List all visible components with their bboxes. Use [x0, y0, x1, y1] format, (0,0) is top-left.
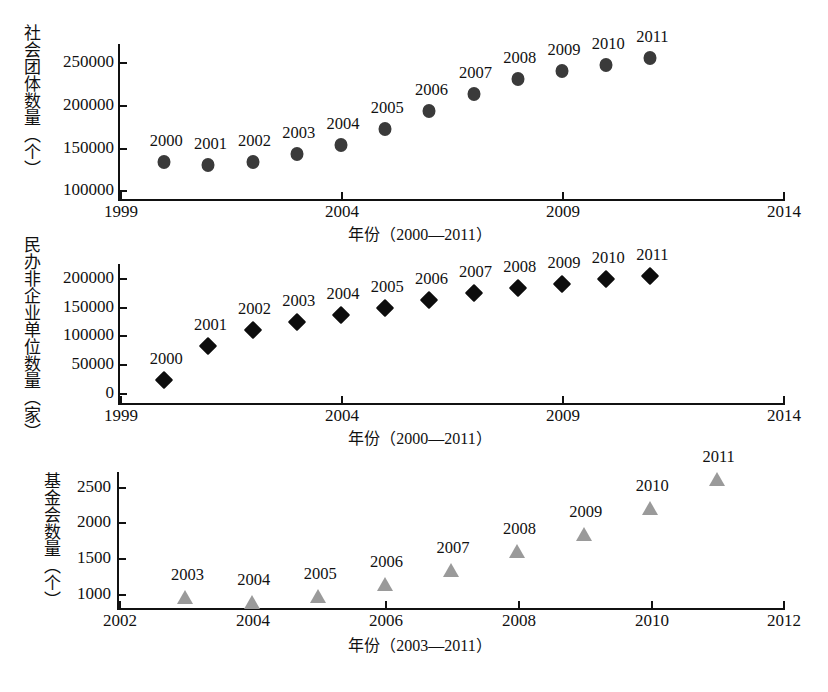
x-tick-label: 2009 [546, 406, 580, 426]
y-axis-tick [120, 148, 127, 150]
x-tick-label: 2010 [635, 611, 669, 631]
data-point-label: 2004 [327, 284, 360, 304]
y-axis-tick [119, 487, 126, 489]
data-point-marker [155, 371, 173, 389]
x-axis-tick [651, 601, 653, 608]
data-point-label: 2009 [548, 253, 581, 273]
data-point-label: 2006 [370, 552, 403, 572]
x-tick-label: 2004 [325, 202, 359, 222]
x-tick-label: 2008 [502, 611, 536, 631]
data-point-label: 2000 [150, 349, 183, 369]
data-point-marker [288, 312, 306, 330]
data-point-label: 2008 [503, 257, 536, 277]
data-point-marker [290, 147, 303, 161]
data-point-label: 2010 [592, 248, 625, 268]
data-point-label: 2003 [282, 123, 315, 143]
chart-panel-social-organizations: 社会团体数量（个） 250000 200000 150000 100000 19… [0, 0, 828, 232]
x-tick-label: 2009 [546, 202, 580, 222]
y-axis-tick [119, 558, 126, 560]
data-point-marker [246, 155, 259, 169]
data-point-marker [199, 337, 217, 355]
y-tick-label: 200000 [2, 268, 114, 288]
data-point-marker [597, 270, 615, 288]
data-point-label: 2004 [237, 570, 270, 590]
x-axis-tick [120, 192, 122, 199]
y-tick-label: 1000 [33, 584, 111, 604]
x-tick-label: 2004 [236, 611, 270, 631]
x-tick-label: 2004 [325, 406, 359, 426]
y-axis-tick [120, 105, 127, 107]
x-axis-tick [518, 601, 520, 608]
x-axis-tick [562, 396, 564, 403]
x-tick-label: 2012 [767, 611, 801, 631]
data-point-marker [556, 64, 569, 78]
x-axis-tick [783, 192, 785, 199]
data-point-label: 2006 [415, 80, 448, 100]
data-point-label: 2008 [503, 48, 536, 68]
y-axis-tick [120, 335, 127, 337]
data-point-label: 2007 [459, 262, 492, 282]
x-axis-tick [120, 396, 122, 403]
x-axis-title: 年份（2003—2011） [348, 632, 491, 656]
data-point-label: 2003 [282, 291, 315, 311]
data-point-label: 2009 [548, 40, 581, 60]
data-point-marker [509, 544, 525, 558]
data-point-label: 2008 [503, 519, 536, 539]
y-tick-label: 2000 [33, 512, 111, 532]
y-axis-line [118, 44, 120, 200]
data-point-marker [177, 590, 193, 604]
data-point-label: 2005 [371, 98, 404, 118]
data-point-label: 2004 [327, 114, 360, 134]
data-point-marker [467, 87, 480, 101]
data-point-marker [709, 472, 725, 486]
x-tick-label: 2002 [103, 611, 137, 631]
data-point-label: 2000 [150, 131, 183, 151]
data-point-label: 2010 [592, 34, 625, 54]
data-point-marker [641, 266, 659, 284]
data-point-label: 2003 [171, 565, 204, 585]
y-axis-tick [119, 522, 126, 524]
y-tick-label: 200000 [2, 95, 114, 115]
figure-root: 社会团体数量（个） 250000 200000 150000 100000 19… [0, 0, 828, 692]
data-point-marker [553, 275, 571, 293]
data-point-marker [310, 589, 326, 603]
data-point-marker [420, 291, 438, 309]
y-tick-label: 100000 [2, 325, 114, 345]
x-axis-tick [783, 396, 785, 403]
y-tick-label: 250000 [2, 52, 114, 72]
y-axis-line [118, 264, 120, 404]
y-axis-tick [120, 278, 127, 280]
data-point-marker [202, 158, 215, 172]
data-point-marker [511, 72, 524, 86]
data-point-label: 2002 [238, 299, 271, 319]
data-point-label: 2011 [702, 447, 734, 467]
y-axis-tick [120, 62, 127, 64]
data-point-marker [600, 58, 613, 72]
data-point-label: 2007 [437, 538, 470, 558]
x-tick-label: 2014 [767, 406, 801, 426]
y-tick-label: 150000 [2, 297, 114, 317]
y-axis-tick [120, 393, 127, 395]
x-tick-label: 2014 [767, 202, 801, 222]
chart-panel-private-non-enterprise-units: 民办非企业单位数量（家） 200000 150000 100000 50000 … [0, 232, 828, 454]
data-point-label: 2011 [636, 27, 668, 47]
y-axis-line [117, 472, 119, 609]
y-tick-label: 150000 [2, 138, 114, 158]
data-point-marker [464, 284, 482, 302]
data-point-marker [377, 577, 393, 591]
x-axis-tick [562, 192, 564, 199]
data-point-marker [244, 595, 260, 609]
data-point-marker [379, 122, 392, 136]
data-point-marker [335, 138, 348, 152]
y-tick-label: 0 [2, 383, 114, 403]
data-point-label: 2001 [194, 315, 227, 335]
x-axis-title: 年份（2000—2011） [348, 425, 491, 449]
data-point-label: 2009 [569, 502, 602, 522]
data-point-marker [158, 155, 171, 169]
data-point-marker [423, 104, 436, 118]
data-point-marker [509, 279, 527, 297]
x-tick-label: 1999 [104, 406, 138, 426]
x-axis-line [117, 608, 785, 610]
data-point-label: 2005 [304, 564, 337, 584]
data-point-label: 2002 [238, 131, 271, 151]
